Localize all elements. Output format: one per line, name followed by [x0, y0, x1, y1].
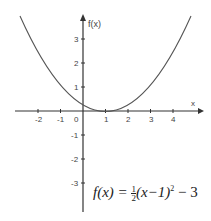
y-axis-label: f(x) [88, 19, 101, 29]
x-tick-label: 0 [74, 115, 79, 124]
y-tick-label: 1 [74, 83, 79, 92]
y-tick-label: -1 [71, 131, 79, 140]
parabola-curve [20, 16, 191, 112]
function-formula: f(x) = 12(x−1)2 − 3 [93, 184, 198, 202]
y-tick-label: -2 [71, 155, 79, 164]
y-axis-arrow-icon [80, 14, 86, 21]
x-tick-label: 3 [149, 115, 154, 124]
y-tick-label: -3 [71, 179, 79, 188]
x-tick-label: 4 [171, 115, 176, 124]
x-tick-label: 2 [126, 115, 131, 124]
y-tick-label: 2 [74, 59, 79, 68]
x-tick-label: -2 [35, 115, 43, 124]
x-tick-label: 1 [104, 115, 109, 124]
y-tick-label: 3 [74, 35, 79, 44]
x-axis-arrow-icon [198, 108, 204, 114]
x-tick-label: -1 [57, 115, 65, 124]
x-axis-label: x [191, 99, 195, 108]
